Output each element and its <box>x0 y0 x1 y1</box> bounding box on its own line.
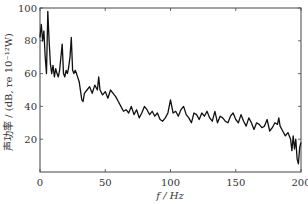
y-tick-label: 60 <box>24 68 37 79</box>
y-tick-label: 40 <box>24 101 37 112</box>
x-tick-label: 50 <box>99 177 112 188</box>
y-axis-ticks <box>40 8 301 139</box>
y-axis-tick-labels: 20406080100 <box>18 3 37 145</box>
x-axis-origin-label: 0 <box>37 177 43 188</box>
chart: 50100150200 20406080100 0 f / Hz 声功率 / (… <box>0 0 308 204</box>
x-axis-label: f / Hz <box>155 190 184 201</box>
x-tick-label: 100 <box>161 177 180 188</box>
y-tick-label: 80 <box>24 35 37 46</box>
plot-frame <box>40 8 301 172</box>
plot-area-border <box>40 8 301 172</box>
x-axis-ticks <box>40 8 301 172</box>
sound-power-trace <box>40 11 301 164</box>
y-tick-label: 20 <box>24 134 37 145</box>
x-tick-label: 200 <box>291 177 308 188</box>
y-tick-label: 100 <box>18 3 37 14</box>
y-axis-label: 声功率 / (dB, re 10⁻¹²W) <box>2 33 14 151</box>
x-axis-tick-labels: 50100150200 <box>99 177 308 188</box>
x-tick-label: 150 <box>226 177 245 188</box>
